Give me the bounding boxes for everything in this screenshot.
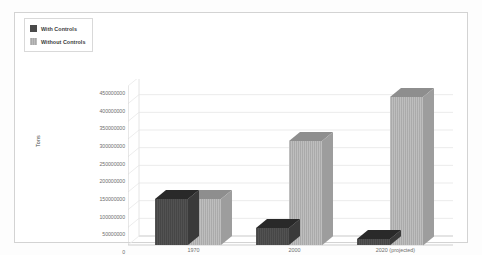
- y-axis-tick-label: 150000000: [99, 196, 125, 202]
- plot-area: [128, 79, 453, 246]
- legend-item-label: With Controls: [41, 26, 77, 32]
- bar-3d-faces: [357, 239, 390, 245]
- y-axis-tick-label: 450000000: [99, 90, 125, 96]
- legend-item-with-controls[interactable]: With Controls: [30, 23, 85, 34]
- y-axis-tick-label: 100000000: [99, 214, 125, 220]
- chart-legend: With Controls Without Controls: [24, 18, 93, 52]
- y-axis-tick-label: 200000000: [99, 178, 125, 184]
- x-axis-tick-label: 2000: [289, 247, 301, 253]
- y-axis-tick-label: 300000000: [99, 143, 125, 149]
- bar-3d-faces: [155, 199, 188, 245]
- bar-without-controls-2020-projected-[interactable]: [390, 97, 423, 245]
- y-axis-tick-label: 400000000: [99, 108, 125, 114]
- bar-with-controls-1970[interactable]: [155, 199, 188, 245]
- dark-swatch-icon: [30, 25, 37, 32]
- y-axis-tick-labels: 4500000004000000003500000003000000002500…: [29, 79, 125, 254]
- y-axis-tick-label: 0: [122, 249, 125, 255]
- x-axis-tick-label: 2020 (projected): [376, 247, 415, 253]
- y-axis-tick-label: 50000000: [102, 231, 125, 237]
- legend-item-without-controls[interactable]: Without Controls: [30, 36, 85, 47]
- y-axis-tick-label: 250000000: [99, 161, 125, 167]
- x-axis-tick-label: 1970: [188, 247, 200, 253]
- bar-with-controls-2020-projected-[interactable]: [357, 239, 390, 245]
- bar-3d-faces: [256, 228, 289, 245]
- light-swatch-icon: [30, 38, 37, 45]
- x-axis-tick-labels: 197020002020 (projected): [128, 247, 458, 255]
- y-axis-tick-label: 350000000: [99, 125, 125, 131]
- screenshot-root: With Controls Without Controls Tons 4500…: [0, 0, 482, 255]
- chart-frame: With Controls Without Controls Tons 4500…: [14, 12, 468, 243]
- bar-with-controls-2000[interactable]: [256, 228, 289, 245]
- bar-3d-faces: [390, 97, 423, 245]
- legend-item-label: Without Controls: [41, 39, 85, 45]
